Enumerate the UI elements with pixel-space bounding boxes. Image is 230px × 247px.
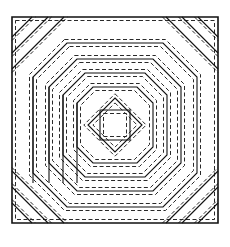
ring-3 bbox=[49, 59, 181, 191]
seam-lines bbox=[12, 17, 218, 223]
ring-4-seam-outer bbox=[30, 40, 201, 211]
stripe-tl-2 bbox=[12, 17, 64, 69]
stripe-tr-seam-1 bbox=[179, 17, 219, 57]
outer-frame bbox=[12, 17, 218, 223]
ring-1-seam-outer bbox=[74, 84, 157, 167]
stripe-tr-0 bbox=[198, 17, 218, 37]
stripe-br-seam-1 bbox=[179, 184, 219, 224]
ring-0 bbox=[88, 98, 142, 152]
ring-2-seam-outer bbox=[60, 70, 171, 181]
stripe-bl-seam-1 bbox=[12, 184, 52, 224]
center-square bbox=[100, 110, 130, 140]
stripe-br-2 bbox=[166, 171, 218, 223]
stripe-tl-0 bbox=[12, 17, 32, 37]
stripe-tl-seam-1 bbox=[12, 17, 52, 57]
stripe-br-0 bbox=[198, 203, 218, 223]
ring-1-seam bbox=[81, 91, 150, 160]
ring-2-seam bbox=[67, 77, 164, 174]
stripe-tr-2 bbox=[166, 17, 218, 69]
stripe-bl-0 bbox=[12, 203, 32, 223]
quilt-block-diagram bbox=[0, 0, 230, 247]
center-square-seam bbox=[104, 114, 127, 137]
stripe-bl-2 bbox=[12, 171, 64, 223]
ring-4 bbox=[33, 43, 197, 207]
ring-2 bbox=[63, 73, 167, 177]
